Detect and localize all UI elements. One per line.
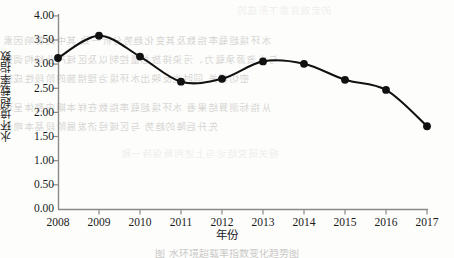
x-axis-tick-labels: 2008 2009 2010 2011 2012 2013 2014 2015 … [0, 0, 454, 258]
y-axis-title: 水环境超载率指数 [1, 50, 17, 142]
chart-page: 的宏观背景下形成的 水环境超载率指数及其变化趋势分析一致 其中的影响因素 与水资… [0, 0, 454, 258]
x-axis-title: 年份 [0, 226, 454, 242]
line-chart: 4.00 3.50 3.00 2.50 2.00 1.50 1.00 0.50 … [0, 0, 454, 258]
